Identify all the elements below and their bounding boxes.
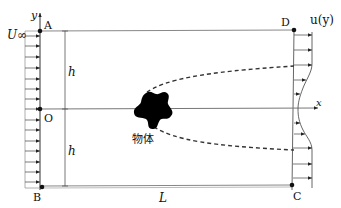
upper-height-label: h <box>68 66 76 78</box>
point-b-label: B <box>33 192 41 203</box>
body-label: 物体 <box>132 134 154 145</box>
point-c-label: C <box>293 191 301 202</box>
point-a-dot <box>38 29 43 34</box>
outflow-velocity-profile <box>293 32 312 188</box>
outflow-velocity-label: u(y) <box>310 14 334 26</box>
point-o-dot <box>38 107 43 112</box>
freestream-velocity-label: U∞ <box>7 29 27 41</box>
x-axis <box>40 108 318 109</box>
point-a-label: A <box>44 20 52 31</box>
x-axis-label: x <box>316 98 322 108</box>
point-d-dot <box>292 28 297 33</box>
y-axis-label: y <box>31 10 37 21</box>
point-c-dot <box>290 183 295 188</box>
lower-height-label: h <box>68 145 76 157</box>
length-label: L <box>159 192 167 204</box>
inflow-velocity-profile <box>25 31 40 188</box>
point-d-label: D <box>281 17 290 28</box>
control-volume-diagram: y A U∞ h O h B L D u(y) x C 物体 <box>0 0 341 208</box>
point-b-dot <box>40 185 45 190</box>
origin-label: O <box>44 113 53 124</box>
body-shape <box>134 92 173 129</box>
